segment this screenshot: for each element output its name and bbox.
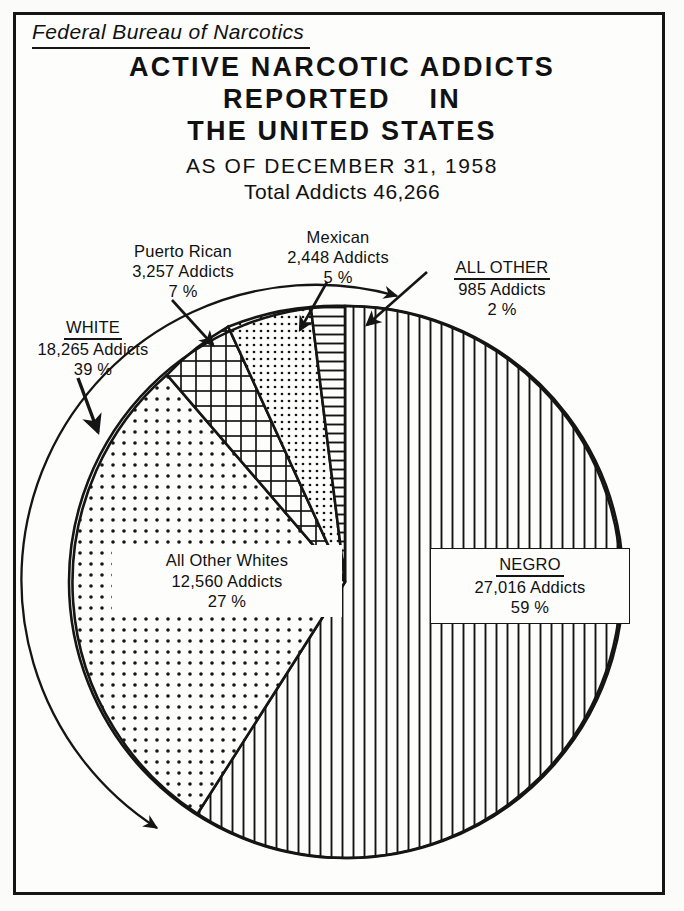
label-all-other-whites: All Other Whites 12,560 Addicts 27 % [112,545,342,617]
label-all-other-whites-percent: 27 % [121,591,333,611]
callout-all-other-percent: 2 % [432,300,572,319]
label-negro-percent: 59 % [440,597,620,617]
callout-all-other: ALL OTHER 985 Addicts 2 % [432,258,572,319]
callout-puerto-rican-percent: 7 % [108,282,258,301]
callout-mexican-percent: 5 % [268,268,408,287]
callout-mexican-addicts: 2,448 Addicts [268,248,408,267]
callout-mexican-title: Mexican [305,228,372,248]
label-all-other-whites-title: All Other Whites [163,550,291,571]
callout-white-group: WHITE 18,265 Addicts 39 % [8,318,178,379]
callout-white-percent: 39 % [8,360,178,379]
chart-sheet: Federal Bureau of Narcotics ACTIVE NARCO… [0,0,684,911]
label-negro-addicts: 27,016 Addicts [440,577,620,597]
label-all-other-whites-addicts: 12,560 Addicts [121,571,333,591]
callout-all-other-addicts: 985 Addicts [432,280,572,299]
callout-white-addicts: 18,265 Addicts [8,340,178,359]
callout-puerto-rican: Puerto Rican 3,257 Addicts 7 % [108,242,258,301]
callout-puerto-rican-title: Puerto Rican [132,242,234,262]
callout-white-title: WHITE [64,318,122,340]
label-negro-title: NEGRO [496,554,564,577]
pie-chart [0,0,684,911]
callout-puerto-rican-addicts: 3,257 Addicts [108,262,258,281]
callout-mexican: Mexican 2,448 Addicts 5 % [268,228,408,287]
callout-all-other-title: ALL OTHER [454,258,551,280]
label-negro: NEGRO 27,016 Addicts 59 % [430,548,630,624]
